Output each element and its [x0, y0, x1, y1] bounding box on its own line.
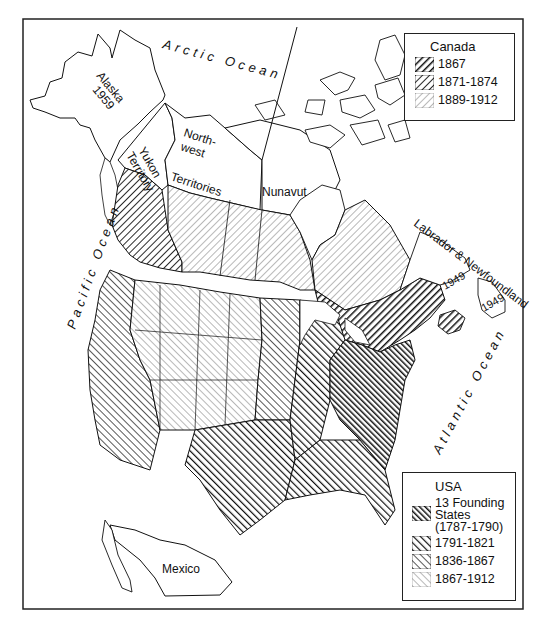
- legend-label-line: (1787-1790): [435, 520, 503, 534]
- legend-label: 1871-1874: [438, 75, 498, 89]
- legend-item: 1791-1821: [412, 536, 515, 551]
- legend-label: 1836-1867: [435, 554, 495, 568]
- legend-label: 1889-1912: [438, 93, 498, 107]
- legend-item: 1836-1867: [412, 554, 515, 569]
- swatch-canada-1889-1912: [415, 93, 434, 108]
- legend-item: 1867-1912: [412, 572, 515, 587]
- swatch-canada-1867: [415, 57, 434, 72]
- label-mexico: Mexico: [162, 562, 200, 576]
- label-nunavut: Nunavut: [262, 185, 307, 199]
- legend-item: 1867: [415, 57, 514, 72]
- legend-usa: USA 13 Founding States (1787-1790) 1791-…: [402, 472, 516, 601]
- legend-item: 13 Founding States (1787-1790): [412, 497, 515, 533]
- legend-label: 1867: [438, 57, 466, 71]
- legend-usa-title: USA: [412, 479, 515, 494]
- swatch-canada-1871-1874: [415, 75, 434, 90]
- swatch-usa-1867-1912: [412, 572, 431, 587]
- legend-canada: Canada 1867 1871-1874 1889-1912: [404, 33, 515, 121]
- legend-canada-title: Canada: [415, 39, 514, 54]
- legend-item: 1889-1912: [415, 93, 514, 108]
- legend-label: 13 Founding States (1787-1790): [435, 497, 505, 533]
- swatch-usa-1791-1821: [412, 536, 431, 551]
- swatch-usa-1836-1867: [412, 554, 431, 569]
- legend-item: 1871-1874: [415, 75, 514, 90]
- legend-label: 1791-1821: [435, 536, 495, 550]
- swatch-usa-founding: [412, 506, 431, 521]
- legend-label: 1867-1912: [435, 572, 495, 586]
